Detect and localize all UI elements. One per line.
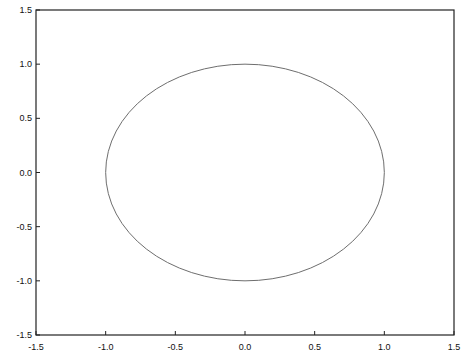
y-tick-label: -1.5 <box>16 330 32 340</box>
y-tick-label: 0.5 <box>19 113 32 123</box>
y-tick-label: 1.5 <box>19 5 32 15</box>
y-tick-label: 0.0 <box>19 168 32 178</box>
x-tick-label: -1.5 <box>28 342 44 352</box>
circle-curve <box>106 64 385 281</box>
y-tick-label: -0.5 <box>16 222 32 232</box>
x-tick-label: -1.0 <box>98 342 114 352</box>
x-tick-label: 1.0 <box>378 342 391 352</box>
x-tick-label: 0.5 <box>308 342 321 352</box>
x-tick-label: 0.0 <box>239 342 252 352</box>
x-tick-label: 1.5 <box>448 342 461 352</box>
plot-frame <box>36 10 454 335</box>
y-tick-label: -1.0 <box>16 276 32 286</box>
x-tick-label: -0.5 <box>168 342 184 352</box>
plot: -1.5-1.0-0.50.00.51.01.5-1.5-1.0-0.50.00… <box>0 0 470 364</box>
y-tick-label: 1.0 <box>19 59 32 69</box>
